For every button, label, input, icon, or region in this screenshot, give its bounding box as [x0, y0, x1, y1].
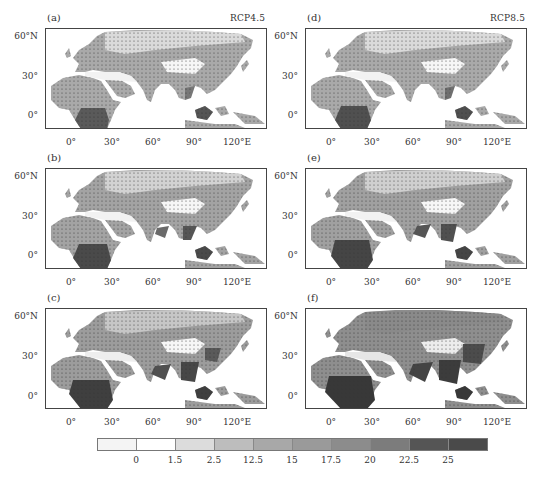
xtick-0-e: 0°	[311, 277, 351, 287]
panel-label-d: (d)	[307, 12, 321, 23]
colorbar-segment-2	[137, 439, 176, 450]
xtick-60-f: 60°	[393, 417, 433, 427]
colorbar	[97, 438, 488, 451]
map-panel-f	[305, 308, 527, 409]
map-a	[45, 28, 267, 129]
xtick-120e-b: 120°E	[217, 277, 257, 287]
map-d	[305, 28, 527, 129]
xtick-60-c: 60°	[133, 417, 173, 427]
xtick-120e-f: 120°E	[477, 417, 517, 427]
xtick-90-f: 90°	[434, 417, 474, 427]
map-c	[45, 308, 267, 409]
ytick-60n-b: 60°N	[4, 171, 38, 181]
ytick-0-f: 0°	[264, 391, 298, 401]
ytick-0-a: 0°	[4, 110, 38, 120]
xtick-0-b: 0°	[51, 277, 91, 287]
xtick-30-a: 30°	[92, 137, 132, 147]
panel-label-a: (a)	[47, 12, 61, 23]
panel-label-e: (e)	[307, 152, 321, 163]
scenario-label-rcp45: RCP4.5	[230, 13, 265, 23]
colorbar-segment-7	[332, 439, 371, 450]
colorbar-segment-8	[371, 439, 410, 450]
xtick-60-e: 60°	[393, 277, 433, 287]
panel-label-b: (b)	[47, 152, 61, 163]
colorbar-label-15: 15	[272, 455, 312, 465]
colorbar-label-25: 25	[428, 455, 468, 465]
map-f	[305, 308, 527, 409]
map-panel-a	[45, 28, 267, 129]
xtick-0-d: 0°	[311, 137, 351, 147]
map-b	[45, 168, 267, 269]
ytick-30-d: 30°	[264, 71, 298, 81]
colorbar-label-22-5: 22.5	[389, 455, 429, 465]
xtick-90-c: 90°	[174, 417, 214, 427]
colorbar-segment-3	[176, 439, 215, 450]
colorbar-segment-1	[98, 439, 137, 450]
xtick-30-d: 30°	[352, 137, 392, 147]
colorbar-segment-5	[254, 439, 293, 450]
ytick-0-c: 0°	[4, 391, 38, 401]
ytick-60n-a: 60°N	[4, 31, 38, 41]
xtick-120e-a: 120°E	[217, 137, 257, 147]
xtick-30-c: 30°	[92, 417, 132, 427]
xtick-30-f: 30°	[352, 417, 392, 427]
ytick-30-c: 30°	[4, 351, 38, 361]
ytick-0-b: 0°	[4, 250, 38, 260]
colorbar-label-2-5: 2.5	[194, 455, 234, 465]
xtick-120e-d: 120°E	[477, 137, 517, 147]
ytick-0-e: 0°	[264, 250, 298, 260]
xtick-60-b: 60°	[133, 277, 173, 287]
xtick-90-d: 90°	[434, 137, 474, 147]
xtick-60-a: 60°	[133, 137, 173, 147]
ytick-60n-d: 60°N	[264, 31, 298, 41]
ytick-30-a: 30°	[4, 71, 38, 81]
colorbar-segment-10	[449, 439, 487, 450]
xtick-30-e: 30°	[352, 277, 392, 287]
map-panel-e	[305, 168, 527, 269]
xtick-0-f: 0°	[311, 417, 351, 427]
ytick-60n-c: 60°N	[4, 311, 38, 321]
xtick-60-d: 60°	[393, 137, 433, 147]
xtick-90-a: 90°	[174, 137, 214, 147]
map-panel-c	[45, 308, 267, 409]
xtick-120e-e: 120°E	[477, 277, 517, 287]
colorbar-label-20: 20	[350, 455, 390, 465]
ytick-30-f: 30°	[264, 351, 298, 361]
ytick-30-b: 30°	[4, 211, 38, 221]
ytick-30-e: 30°	[264, 211, 298, 221]
ytick-60n-e: 60°N	[264, 171, 298, 181]
xtick-0-c: 0°	[51, 417, 91, 427]
map-e	[305, 168, 527, 269]
scenario-label-rcp85: RCP8.5	[490, 13, 525, 23]
colorbar-label-1-5: 1.5	[155, 455, 195, 465]
colorbar-segment-4	[215, 439, 254, 450]
panel-label-f: (f)	[307, 292, 319, 303]
panel-label-c: (c)	[47, 292, 60, 303]
xtick-120e-c: 120°E	[217, 417, 257, 427]
xtick-30-b: 30°	[92, 277, 132, 287]
xtick-90-e: 90°	[434, 277, 474, 287]
xtick-0-a: 0°	[51, 137, 91, 147]
xtick-90-b: 90°	[174, 277, 214, 287]
ytick-60n-f: 60°N	[264, 311, 298, 321]
colorbar-label-0: 0	[116, 455, 156, 465]
colorbar-segment-9	[410, 439, 449, 450]
map-panel-d	[305, 28, 527, 129]
colorbar-segment-6	[293, 439, 332, 450]
colorbar-label-12-5: 12.5	[233, 455, 273, 465]
ytick-0-d: 0°	[264, 110, 298, 120]
colorbar-label-17-5: 17.5	[311, 455, 351, 465]
map-panel-b	[45, 168, 267, 269]
